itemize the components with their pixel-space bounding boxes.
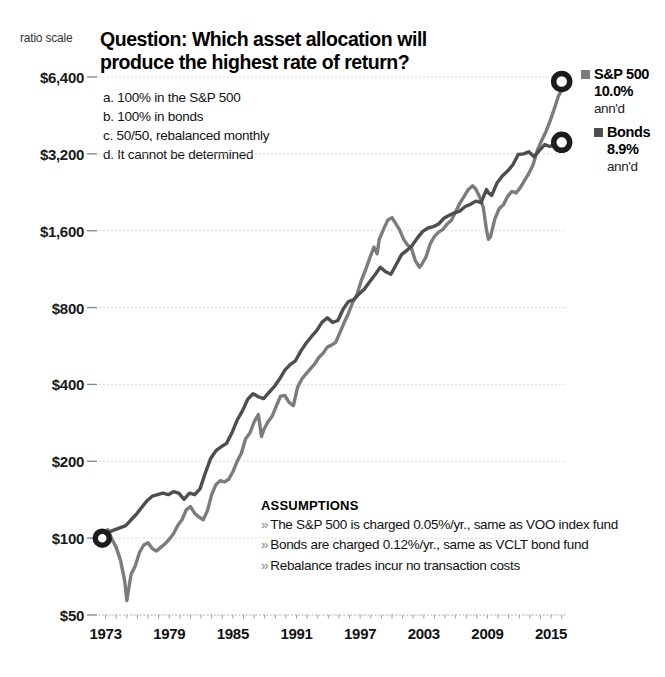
legend-swatch-bonds [594,128,603,137]
x-axis-ticks [95,615,567,619]
chart-legend: S&P 500 10.0% ann'd Bonds 8.9% ann'd [581,66,665,183]
y-axis-tick-label: $200 [52,453,84,470]
legend-value-bonds: 8.9% [607,141,638,157]
y-axis-tick-label: $100 [52,530,84,547]
x-axis-tick-label: 1997 [344,625,376,642]
y-axis-tick-label: $400 [52,376,84,393]
x-axis-tick-label: 2003 [408,625,440,642]
legend-item-sp500: S&P 500 10.0% ann'd [581,66,665,116]
end-marker-sp500 [554,73,570,89]
x-axis-tick-label: 1991 [280,625,312,642]
bullet-icon: » [261,558,268,573]
legend-label-sp500: S&P 500 [594,66,649,82]
x-axis-tick-label: 1973 [90,625,122,642]
chart-figure: ratio scale Question: Which asset alloca… [0,0,665,677]
assumption-text-2: Bonds are charged 0.12%/yr., same as VCL… [270,537,588,552]
legend-item-bonds: Bonds 8.9% ann'd [594,124,665,174]
y-axis-tick-label: $1,600 [40,222,84,239]
endpoint-markers [95,73,569,545]
assumption-text-3: Rebalance trades incur no transaction co… [270,558,520,573]
assumption-item-1: »The S&P 500 is charged 0.05%/yr., same … [261,515,661,535]
legend-label-bonds: Bonds [607,124,650,140]
legend-suffix-bonds: ann'd [607,159,638,174]
y-axis-tick-label: $6,400 [40,69,84,86]
bullet-icon: » [261,517,268,532]
y-axis-tick-label: $3,200 [40,145,84,162]
legend-value-sp500: 10.0% [594,83,633,99]
legend-swatch-sp500 [581,70,590,79]
assumption-item-3: »Rebalance trades incur no transaction c… [261,556,661,576]
x-axis-tick-label: 2009 [471,625,503,642]
y-axis-tick-label: $800 [52,299,84,316]
assumption-item-2: »Bonds are charged 0.12%/yr., same as VC… [261,535,661,555]
x-axis-tick-label: 2015 [535,625,567,642]
start-marker [95,531,109,545]
assumptions-heading: ASSUMPTIONS [261,498,661,513]
legend-suffix-sp500: ann'd [594,101,625,116]
series-line-bonds [99,142,561,538]
y-axis-tick-label: $50 [60,607,84,624]
x-axis-tick-label: 1979 [153,625,185,642]
assumption-text-1: The S&P 500 is charged 0.05%/yr., same a… [270,517,618,532]
assumptions-block: ASSUMPTIONS »The S&P 500 is charged 0.05… [261,498,661,576]
bullet-icon: » [261,537,268,552]
x-axis-tick-label: 1985 [217,625,249,642]
end-marker-bonds [554,134,570,150]
